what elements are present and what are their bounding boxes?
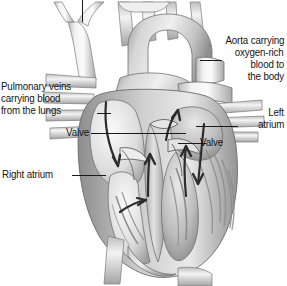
valve-left-label: Valve — [33, 126, 89, 138]
heart-diagram-figure: Aorta carrying oxygen-rich blood to the … — [0, 0, 287, 286]
pulmonary-veins-label: Pulmonary veins — [1, 80, 71, 92]
right-atrium-label: Right atrium — [2, 168, 53, 180]
aorta-label-line4: the body — [248, 70, 284, 82]
aorta-label-line2: oxygen-rich — [235, 46, 284, 58]
aorta-label-line3: blood to — [250, 58, 284, 70]
pulmonary-veins-label-line2: carrying blood — [1, 92, 60, 104]
aorta-label: Aorta carrying — [225, 34, 284, 46]
pulmonary-veins-label-line3: from the lungs — [1, 104, 61, 116]
left-atrium-label: Left — [268, 106, 284, 118]
valve-right-label: Valve — [200, 136, 223, 148]
left-atrium-label-line2: atrium — [258, 118, 284, 130]
